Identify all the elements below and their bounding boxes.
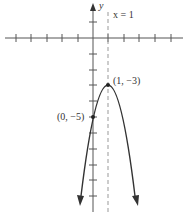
- left-arrow-icon: [77, 195, 84, 206]
- intercept-label: (0, −5): [57, 112, 84, 122]
- y-axis-label: y: [99, 1, 103, 11]
- vertex-point: [106, 83, 110, 87]
- right-arrow-icon: [132, 195, 139, 206]
- y-axis-arrow-icon: [90, 3, 96, 11]
- vertex-label: (1, −3): [113, 76, 140, 86]
- symmetry-label: x = 1: [113, 10, 134, 20]
- intercept-point: [91, 115, 95, 119]
- graph: [0, 0, 183, 217]
